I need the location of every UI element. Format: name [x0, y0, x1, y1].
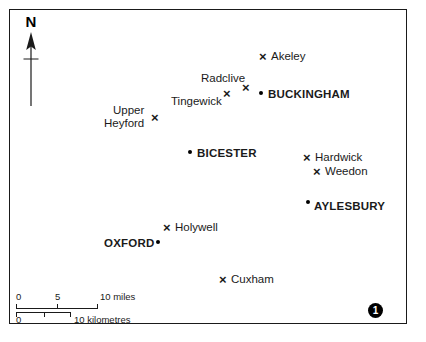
- scale-miles-start-label: 0: [16, 292, 21, 302]
- place-label-bicester: BICESTER: [197, 147, 257, 160]
- north-arrow: N: [14, 14, 48, 106]
- cross-marker-icon: ×: [151, 112, 159, 123]
- scale-kilometres-unit-label: 10 kilometres: [74, 315, 131, 325]
- north-arrow-icon: [14, 14, 48, 106]
- cross-marker-icon: ×: [223, 88, 231, 99]
- scale-kilometres-start-label: 0: [16, 315, 21, 325]
- place-label-buckingham: BUCKINGHAM: [268, 88, 350, 101]
- place-label-weedon: Weedon: [325, 165, 368, 178]
- cross-marker-icon: ×: [303, 152, 311, 163]
- scale-bars: 0 5 10 miles 0 10 kilometres: [16, 292, 176, 332]
- cross-marker-icon: ×: [163, 222, 171, 233]
- scale-miles-mid-label: 5: [55, 292, 60, 302]
- scale-miles-bar: [16, 304, 98, 309]
- place-label-akeley: Akeley: [271, 50, 306, 63]
- map-figure: N ×Akeley×Radclive×TingewickBUCKINGHAM×U…: [0, 0, 426, 342]
- scale-miles-mid-tick: [57, 304, 58, 308]
- place-label-holywell: Holywell: [175, 221, 218, 234]
- place-label-cuxham: Cuxham: [231, 273, 274, 286]
- scale-miles-unit-label: 10 miles: [100, 292, 135, 302]
- place-label-tingewick: Tingewick: [171, 95, 222, 108]
- figure-number-badge: 1: [368, 303, 383, 318]
- cross-marker-icon: ×: [313, 166, 321, 177]
- place-label-upper-heyford: UpperHeyford: [104, 104, 144, 130]
- place-label-radclive: Radclive: [201, 72, 245, 85]
- cross-marker-icon: ×: [259, 51, 267, 62]
- cross-marker-icon: ×: [219, 274, 227, 285]
- scale-kilometres-mid-tick: [44, 313, 45, 317]
- place-label-oxford: OXFORD: [104, 237, 154, 250]
- place-label-upper-heyford-line2: Heyford: [104, 117, 144, 130]
- place-label-upper-heyford-line1: Upper: [104, 104, 144, 117]
- place-label-hardwick: Hardwick: [315, 151, 362, 164]
- scale-kilometres-bar: [16, 312, 71, 317]
- place-label-aylesbury: AYLESBURY: [314, 200, 385, 213]
